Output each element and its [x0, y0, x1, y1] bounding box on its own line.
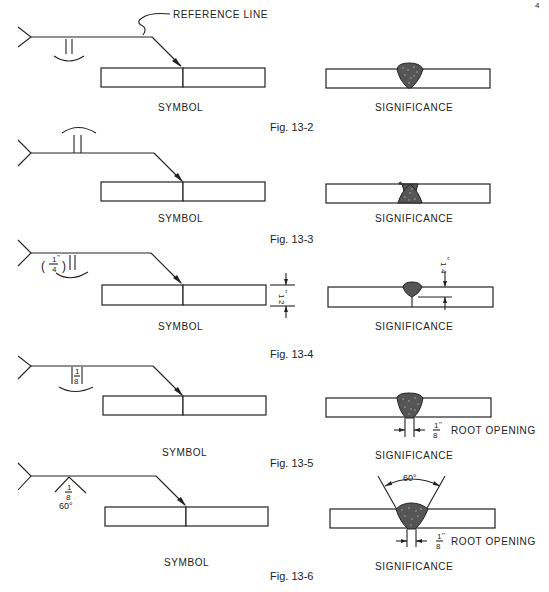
root-opening-label: ROOT OPENING [451, 425, 536, 436]
groove-angle-label: 60° [403, 473, 417, 483]
svg-text:2: 2 [277, 300, 286, 305]
symbol-label: SYMBOL [158, 102, 203, 113]
tail-icon [18, 463, 31, 490]
weld-size-denominator: 4 [52, 265, 57, 274]
fig-13-5: 1 8 SYMBOL 1 " 8 ROOT OPENING SIGNIFICAN… [18, 356, 536, 469]
significance-label: SIGNIFICANCE [375, 102, 453, 113]
symbol-label: SYMBOL [162, 447, 207, 458]
figure-caption: Fig. 13-2 [270, 121, 313, 133]
figure-caption: Fig. 13-3 [270, 233, 313, 245]
significance-label: SIGNIFICANCE [375, 321, 453, 332]
leader-line [139, 14, 170, 36]
tail-icon [18, 356, 31, 379]
svg-text:4: 4 [439, 269, 448, 274]
svg-text:8: 8 [436, 542, 441, 551]
significance-label: SIGNIFICANCE [375, 213, 453, 224]
svg-text:(: ( [41, 259, 45, 273]
convex-contour-icon [62, 128, 96, 134]
svg-text:": " [280, 290, 289, 293]
penetration-dimension: " 1 4 [439, 257, 451, 274]
svg-text:1: 1 [67, 483, 72, 492]
thickness-dimension: " 1 2 [277, 290, 289, 305]
convex-contour-icon [56, 272, 88, 278]
root-opening-numerator: 1 [75, 367, 80, 376]
figure-caption: Fig. 13-5 [270, 457, 313, 469]
tail-icon [18, 240, 31, 266]
convex-contour-icon [54, 56, 84, 61]
root-opening-denominator: 8 [74, 377, 79, 386]
svg-text:1: 1 [439, 262, 448, 267]
svg-text:8: 8 [433, 431, 438, 440]
page-number: 4 [535, 1, 540, 10]
arrow-head-icon [172, 58, 181, 67]
svg-text:": " [442, 257, 451, 260]
fig-13-6: 1 8 60° SYMBOL 60° 1 " 8 ROOT OPENING SI… [18, 463, 536, 582]
figure-caption: Fig. 13-6 [270, 570, 313, 582]
tail-icon [18, 140, 31, 166]
svg-text:): ) [62, 259, 66, 273]
reference-line-label: REFERENCE LINE [173, 9, 268, 20]
svg-text:1: 1 [277, 294, 286, 299]
symbol-label: SYMBOL [158, 213, 203, 224]
root-opening-label: ROOT OPENING [451, 536, 536, 547]
figure-caption: Fig. 13-4 [270, 348, 313, 360]
welding-symbols-page: REFERENCE LINE SYMBOL SIGNIFICANCE Fig. … [0, 0, 549, 592]
svg-text:": " [57, 253, 60, 262]
tail-icon [18, 27, 31, 47]
svg-text:": " [442, 531, 445, 540]
convex-contour-icon [59, 387, 93, 392]
fig-13-2: REFERENCE LINE SYMBOL SIGNIFICANCE Fig. … [18, 9, 490, 133]
svg-text:": " [439, 420, 442, 429]
symbol-label: SYMBOL [164, 557, 209, 568]
symbol-label: SYMBOL [158, 321, 203, 332]
fig-13-3: SYMBOL SIGNIFICANCE Fig. 13-3 [18, 128, 490, 246]
fig-13-4: ( 1 4 " ) " 1 2 SYMBOL " 1 4 [18, 240, 493, 360]
significance-label: SIGNIFICANCE [375, 561, 453, 572]
groove-angle: 60° [59, 501, 73, 511]
significance-label: SIGNIFICANCE [375, 450, 453, 461]
